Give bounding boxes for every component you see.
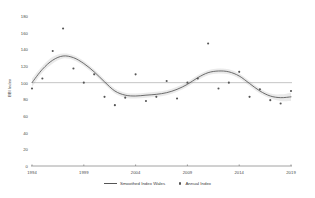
data-point (176, 97, 178, 99)
data-point (269, 99, 271, 101)
data-point (207, 42, 209, 44)
axis-lines (31, 164, 292, 166)
data-point (217, 87, 219, 89)
legend-item-annual: Annual Index (179, 181, 211, 186)
plot-area (0, 0, 315, 198)
data-point (103, 96, 105, 98)
data-point (72, 67, 74, 69)
legend-label-annual: Annual Index (185, 181, 211, 186)
data-point (166, 80, 168, 82)
data-point (83, 82, 85, 84)
chart-container: BBI Index 020406080100120140160180 19941… (0, 0, 315, 198)
data-point (186, 82, 188, 84)
data-point (238, 71, 240, 73)
data-point (41, 77, 43, 79)
data-point (228, 82, 230, 84)
legend-item-smoothed: Smoothed Index Wales (104, 181, 165, 186)
data-point (114, 104, 116, 106)
data-point (155, 96, 157, 98)
data-point (52, 50, 54, 52)
data-point (290, 90, 292, 92)
legend-dot-swatch-icon (179, 182, 181, 184)
data-point (62, 27, 64, 29)
data-point (93, 73, 95, 75)
data-point (259, 88, 261, 90)
legend-label-smoothed: Smoothed Index Wales (120, 181, 165, 186)
data-point (197, 77, 199, 79)
data-point (124, 97, 126, 99)
data-point (31, 87, 33, 89)
data-point (135, 73, 137, 75)
data-point (249, 96, 251, 98)
chart-legend: Smoothed Index Wales Annual Index (0, 181, 315, 186)
data-point (280, 102, 282, 104)
data-point (145, 100, 147, 102)
legend-line-swatch-icon (104, 183, 117, 184)
